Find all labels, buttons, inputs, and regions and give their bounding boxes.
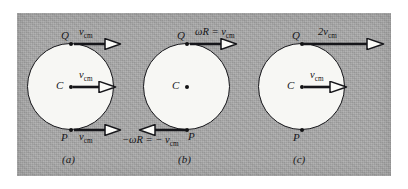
velocity-label-q-a: vcm — [79, 27, 93, 40]
velocity-symbol-q-c: 2v — [318, 26, 328, 37]
velocity-label-q-c: 2vcm — [318, 27, 337, 40]
caption-a: (a) — [62, 153, 75, 165]
figure-panel: Q vcm C vcm — [17, 13, 391, 176]
point-p-a — [69, 128, 73, 132]
velocity-label-q-b: ωR = vcm — [195, 27, 235, 40]
velocity-sub-q-a: cm — [84, 32, 93, 40]
point-q-a — [69, 42, 73, 46]
velocity-sub-center-c: cm — [315, 75, 324, 83]
point-q-c — [300, 42, 304, 46]
point-q-label-a: Q — [61, 30, 69, 41]
figure-panel-c: Q 2vcm C vcm — [248, 13, 391, 176]
point-p-c — [300, 128, 304, 132]
center-label-b: C — [172, 80, 179, 91]
point-p-label-b: P — [188, 131, 195, 142]
velocity-sub-p-b: cm — [170, 140, 179, 148]
caption-c: (c) — [293, 153, 305, 165]
velocity-sub-q-c: cm — [328, 32, 337, 40]
point-q-label-b: Q — [177, 30, 185, 41]
velocity-label-center-a: vcm — [79, 70, 93, 83]
point-q-label-c: Q — [292, 30, 300, 41]
velocity-sub-center-a: cm — [84, 75, 93, 83]
figure-page: Q vcm C vcm — [0, 0, 408, 189]
velocity-sub-p-a: cm — [84, 137, 93, 145]
center-dot-a — [69, 85, 73, 89]
velocity-label-p-a: vcm — [79, 132, 93, 145]
caption-b: (b) — [178, 153, 191, 165]
velocity-label-center-c: vcm — [310, 70, 324, 83]
velocity-sub-q-b: cm — [226, 32, 235, 40]
velocity-label-p-b: −ωR = − vcm — [122, 135, 179, 148]
center-label-c: C — [287, 80, 294, 91]
point-p-label-a: P — [61, 132, 68, 143]
velocity-symbol-q-b: ωR = v — [195, 26, 226, 37]
velocity-symbol-p-b: −ωR = − v — [122, 134, 170, 145]
figure-panel-a: Q vcm C vcm — [17, 13, 147, 176]
center-dot-b — [185, 85, 189, 89]
point-q-b — [185, 42, 189, 46]
center-label-a: C — [56, 80, 63, 91]
center-dot-c — [300, 85, 304, 89]
point-p-label-c: P — [293, 132, 300, 143]
